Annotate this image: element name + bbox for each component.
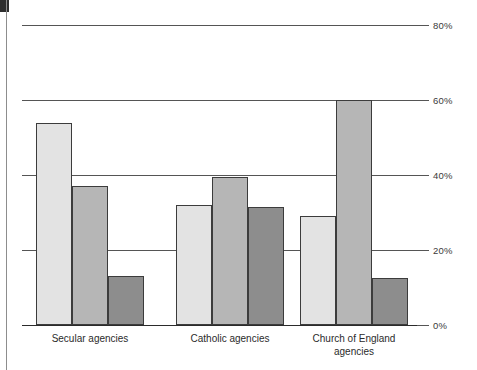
y-tick-label: 60% xyxy=(433,95,453,106)
y-tick-mark-20 xyxy=(417,250,429,251)
gridline-0 xyxy=(22,325,417,326)
plot-area xyxy=(22,25,417,325)
category-label: Church of England agencies xyxy=(255,332,453,358)
y-tick-mark-40 xyxy=(417,175,429,176)
y-tick-mark-0 xyxy=(417,325,429,326)
bar xyxy=(176,205,212,325)
bar xyxy=(336,100,372,325)
bar xyxy=(36,123,72,326)
bar xyxy=(212,177,248,325)
y-tick-label: 80% xyxy=(433,20,453,31)
bar xyxy=(72,186,108,325)
bar xyxy=(248,207,284,325)
y-tick-mark-80 xyxy=(417,25,429,26)
y-tick-label: 40% xyxy=(433,170,453,181)
bar xyxy=(300,216,336,325)
y-tick-label: 0% xyxy=(433,320,447,331)
bar xyxy=(372,278,408,325)
y-tick-label: 20% xyxy=(433,245,453,256)
bar xyxy=(108,276,144,325)
y-tick-mark-60 xyxy=(417,100,429,101)
bar-chart-figure: 0%20%40%60%80% Secular agenciesCatholic … xyxy=(0,0,477,370)
